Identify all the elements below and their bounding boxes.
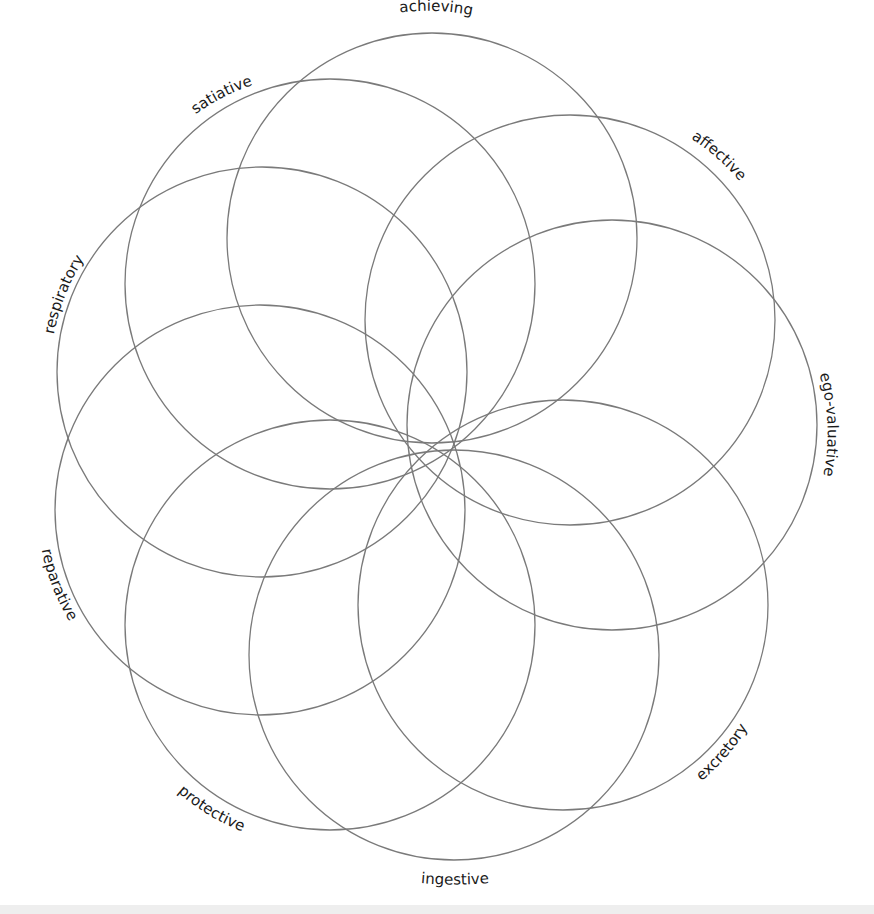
- label-respiratory: respiratory: [40, 251, 88, 335]
- labels-group: achieving affective ego-valuative excret…: [38, 0, 842, 889]
- circle-affective: [365, 115, 775, 525]
- circle-protective: [125, 420, 535, 830]
- label-affective: affective: [689, 127, 751, 184]
- circle-excretory: [358, 400, 768, 810]
- circles-group: [55, 33, 817, 860]
- circle-satiative: [125, 79, 535, 489]
- circle-achieving: [227, 33, 637, 443]
- label-achieving: achieving: [398, 0, 474, 19]
- rosette-diagram: achieving affective ego-valuative excret…: [0, 0, 874, 914]
- circle-ego-valuative: [407, 220, 817, 630]
- label-ego-valuative: ego-valuative: [816, 371, 842, 478]
- label-excretory: excretory: [692, 720, 751, 784]
- label-ingestive: ingestive: [420, 869, 489, 888]
- circle-respiratory: [57, 167, 467, 577]
- circle-reparative: [55, 305, 465, 715]
- label-reparative: reparative: [38, 547, 82, 624]
- circle-ingestive: [249, 450, 659, 860]
- page-edge-band: [0, 905, 874, 914]
